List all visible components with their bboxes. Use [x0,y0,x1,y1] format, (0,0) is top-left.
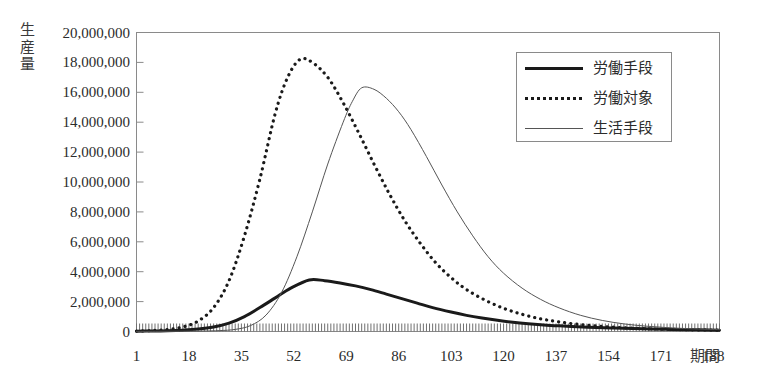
legend-label-2: 生活手段 [593,120,653,136]
x-tick-label: 18 [181,348,196,364]
x-tick-label: 171 [650,348,673,364]
x-tick-label: 103 [440,348,463,364]
legend-line-thick-solid-icon [525,62,583,74]
legend-label-0: 労働手段 [593,60,653,76]
legend-line-thin-solid-icon [525,122,583,134]
legend-label-1: 労働対象 [593,90,653,106]
legend-item-1[interactable]: 労働対象 [517,83,673,113]
series-line-0 [137,279,720,331]
x-tick-label: 35 [234,348,249,364]
x-tick-label: 154 [597,348,620,364]
x-tick-label: 52 [286,348,301,364]
chart-legend: 労働手段 労働対象 生活手段 [516,52,672,142]
legend-item-0[interactable]: 労働手段 [517,53,673,83]
x-tick-label: 69 [339,348,354,364]
x-tick-label: 1 [133,348,141,364]
x-tick-label: 137 [545,348,568,364]
y-axis-ticks [137,33,144,302]
production-volume-chart: 生 産 量 02,000,0004,000,0006,000,0008,000,… [0,0,761,379]
legend-item-2[interactable]: 生活手段 [517,113,673,143]
x-axis-title: 期間 [690,348,720,365]
legend-line-dotted-icon [525,92,583,104]
x-tick-label: 120 [492,348,515,364]
x-tick-label: 86 [391,348,406,364]
